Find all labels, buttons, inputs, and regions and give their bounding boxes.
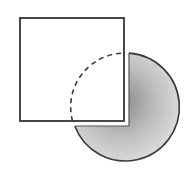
square	[20, 18, 124, 121]
diagram-canvas	[0, 0, 191, 182]
square-circle-diagram	[0, 0, 191, 182]
hidden-arc-dashed	[71, 53, 123, 121]
shaded-inner-edge	[75, 53, 129, 126]
